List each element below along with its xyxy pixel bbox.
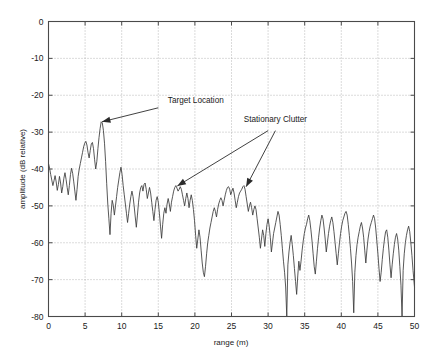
x-tick-label: 0 (46, 321, 51, 331)
x-tick-label: 45 (373, 321, 383, 331)
y-tick-label: -30 (31, 127, 44, 137)
stationary-clutter-label: Stationary Clutter (244, 115, 308, 124)
y-tick-labels: 0-10-20-30-40-50-60-70-80 (31, 17, 44, 322)
y-tick-label: -40 (31, 164, 44, 174)
y-tick-label: -50 (31, 201, 44, 211)
target-location-label: Target Location (168, 96, 224, 105)
x-tick-label: 40 (337, 321, 347, 331)
x-tick-label: 35 (300, 321, 310, 331)
x-tick-label: 20 (190, 321, 200, 331)
y-tick-label: -70 (31, 275, 44, 285)
radar-range-profile-figure: 05101520253035404550 0-10-20-30-40-50-60… (0, 0, 436, 357)
y-tick-label: -60 (31, 238, 44, 248)
y-tick-label: -20 (31, 90, 44, 100)
x-tick-label: 10 (117, 321, 127, 331)
x-axis-title: range (m) (214, 338, 249, 347)
x-tick-label: 30 (263, 321, 273, 331)
chart-canvas: 05101520253035404550 0-10-20-30-40-50-60… (0, 0, 436, 357)
y-tick-label: -80 (31, 312, 44, 322)
x-tick-label: 15 (154, 321, 164, 331)
y-tick-label: 0 (39, 17, 44, 27)
x-tick-label: 5 (83, 321, 88, 331)
x-tick-label: 50 (410, 321, 420, 331)
y-tick-label: -10 (31, 53, 44, 63)
figure-background (0, 0, 436, 357)
x-tick-label: 25 (227, 321, 237, 331)
y-axis-title: amplitude (dB relative) (18, 129, 27, 209)
